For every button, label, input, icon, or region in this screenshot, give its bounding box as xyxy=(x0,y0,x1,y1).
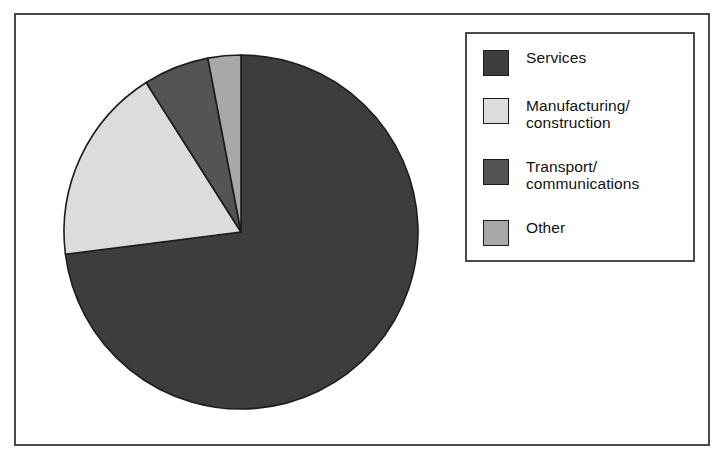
legend-swatch-other xyxy=(483,220,509,246)
legend-item-manufacturing-construction[interactable]: Manufacturing/ construction xyxy=(483,97,630,131)
legend-swatch-services xyxy=(483,50,509,76)
legend-swatch-transport-communications xyxy=(483,159,509,185)
pie-chart-figure: Services Manufacturing/ construction Tra… xyxy=(0,0,723,463)
legend-label-services: Services xyxy=(526,49,586,66)
legend-item-transport-communications[interactable]: Transport/ communications xyxy=(483,158,639,192)
legend: Services Manufacturing/ construction Tra… xyxy=(465,32,695,262)
legend-item-services[interactable]: Services xyxy=(483,49,586,76)
legend-label-manufacturing-construction: Manufacturing/ construction xyxy=(526,97,630,131)
legend-label-other: Other xyxy=(526,219,565,236)
legend-item-other[interactable]: Other xyxy=(483,219,565,246)
legend-label-transport-communications: Transport/ communications xyxy=(526,158,639,192)
legend-swatch-manufacturing-construction xyxy=(483,98,509,124)
